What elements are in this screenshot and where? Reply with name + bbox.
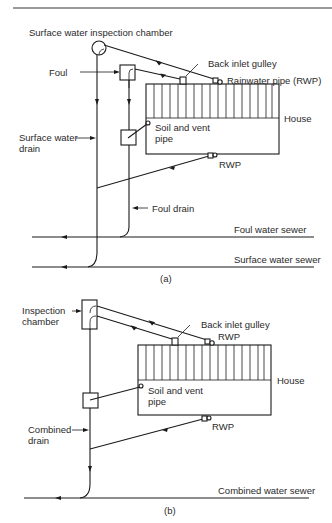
flow-arrow [147,320,155,326]
label-inspection-1: Inspection [22,305,65,316]
rwp-pipe-icon [218,80,222,84]
label-combined-water-sewer: Combined water sewer [218,485,315,496]
label-house-a: House [284,113,311,124]
rwp-pipe-icon [207,416,211,420]
label-back-inlet-gulley-b: Back inlet gulley [201,319,270,330]
label-rwp-lower-a: RWP [219,159,241,170]
label-sw-drain-1: Surface water [19,132,78,143]
rwp-lower-pipe-a [97,156,209,188]
leader-arrow [76,309,82,313]
label-sw-drain-2: drain [19,143,40,154]
foul-pipe-a [135,69,180,79]
rwp-pipe-icon [210,341,214,345]
inspection-chamber-icon [82,300,97,329]
flow-arrow [55,496,61,500]
label-inspection-2: chamber [22,316,59,327]
caption-a: (a) [160,273,172,284]
back-inlet-gulley-icon [172,338,178,345]
label-svp-b-1: Soil and vent [148,385,203,396]
leader-arrow [83,428,89,432]
flow-arrow [127,99,131,105]
foul-chamber-icon [120,65,135,80]
label-combined-2: drain [28,435,49,446]
label-sw-inspection-chamber: Surface water inspection chamber [29,27,173,38]
flow-arrow [61,265,67,269]
label-house-b: House [277,375,304,386]
soil-chamber-icon [83,393,98,408]
panel-b: Inspection chamber Back inlet gulley RWP… [22,300,315,516]
label-rwp-upper-b: RWP [218,331,240,342]
rwp-gully-icon [202,416,207,421]
foul-drain [120,80,129,237]
label-surface-water-sewer: Surface water sewer [234,254,321,265]
label-rwp-lower-b: RWP [212,421,234,432]
label-foul-water-sewer: Foul water sewer [234,224,306,235]
rwp-pipe-icon [213,153,217,157]
label-rainwater-pipe: Rainwater pipe (RWP) [227,75,321,86]
label-foul: Foul [49,67,67,78]
label-svp-2: pipe [155,133,173,144]
flow-arrow [88,466,92,472]
rwp-gully-icon [205,339,210,344]
leader-arrow [132,206,138,210]
label-svp-1: Soil and vent [155,122,210,133]
flow-arrow [95,99,99,105]
leader-arrow [114,70,120,74]
rwp-gully-icon [208,153,213,158]
label-svp-b-2: pipe [148,396,166,407]
rwp-gully-icon [213,78,218,83]
panel-a: Surface water inspection chamber Back in… [19,27,321,284]
rwp-lower-pipe-b [90,419,203,449]
leader-back-inlet [178,325,190,337]
label-foul-drain: Foul drain [152,203,194,214]
caption-b: (b) [164,505,176,516]
leader-arrow [90,136,96,140]
svp-icon [146,121,150,125]
combined-drain [80,329,90,498]
flow-arrow [61,235,67,239]
label-back-inlet-gulley: Back inlet gulley [208,58,277,69]
drainage-diagram: Surface water inspection chamber Back in… [0,0,332,523]
svp-icon [139,384,143,388]
leader-back-inlet [186,64,198,76]
surface-water-drain [88,55,97,267]
back-inlet-gulley-icon [180,77,186,84]
label-combined-1: Combined [28,424,71,435]
